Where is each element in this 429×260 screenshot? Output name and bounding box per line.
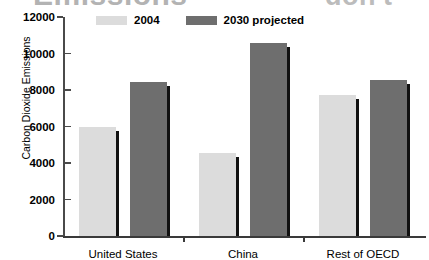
legend-swatch: [186, 16, 217, 25]
bar-series2: [370, 80, 410, 236]
bar-body: [250, 43, 287, 236]
legend-label: 2004: [134, 14, 160, 26]
x-category-label: United States: [88, 248, 157, 260]
x-axis-tick: [303, 236, 305, 242]
y-axis-tick-label: 4000: [29, 157, 55, 169]
bar-series1: [79, 127, 119, 237]
y-axis-tick-label: 6000: [29, 121, 55, 133]
legend-swatch: [96, 16, 127, 25]
bar-shadow: [287, 47, 290, 236]
bar-body: [319, 95, 356, 236]
bar-series1: [199, 153, 239, 236]
bar-shadow: [167, 86, 170, 236]
y-axis-tick: [64, 126, 71, 128]
legend-label: 2030 projected: [224, 14, 305, 26]
bar-shadow: [356, 99, 359, 236]
chart-screenshot: Emissions don't Carbon Dioxide Emissions…: [0, 0, 429, 260]
bar-series1: [319, 95, 359, 236]
headline-text-left: Emissions: [33, 0, 188, 12]
bar-body: [79, 127, 116, 237]
headline-text-right: don't: [325, 0, 392, 12]
x-category-label: China: [228, 248, 258, 260]
bar-body: [130, 82, 167, 236]
y-axis-tick-label: 12000: [23, 11, 55, 23]
bar-series2: [130, 82, 170, 236]
bar-body: [199, 153, 236, 236]
x-category-label: Rest of OECD: [327, 248, 400, 260]
bar-series2: [250, 43, 290, 236]
y-axis-tick: [57, 16, 63, 18]
bar-body: [370, 80, 407, 236]
y-axis-tick-label: 0: [49, 230, 55, 242]
x-axis-line: [63, 236, 426, 238]
y-axis-tick: [64, 162, 71, 164]
bar-shadow: [116, 131, 119, 237]
y-axis-tick-label: 10000: [23, 48, 55, 60]
y-axis-tick: [64, 53, 71, 55]
y-axis-tick: [57, 235, 63, 237]
legend-item: 2004: [96, 14, 160, 26]
y-axis-title: Carbon Dioxide Emissions: [20, 18, 32, 178]
y-axis-tick-label: 2000: [29, 194, 55, 206]
y-axis-tick: [64, 199, 71, 201]
legend-item: 2030 projected: [186, 14, 305, 26]
y-axis-tick: [64, 89, 71, 91]
bar-shadow: [407, 84, 410, 236]
chart-legend: 20042030 projected: [96, 14, 304, 26]
x-axis-tick: [183, 236, 185, 242]
bar-shadow: [236, 157, 239, 236]
y-axis-tick-label: 8000: [29, 84, 55, 96]
plot-area: 020004000600080001000012000 United State…: [63, 17, 423, 236]
